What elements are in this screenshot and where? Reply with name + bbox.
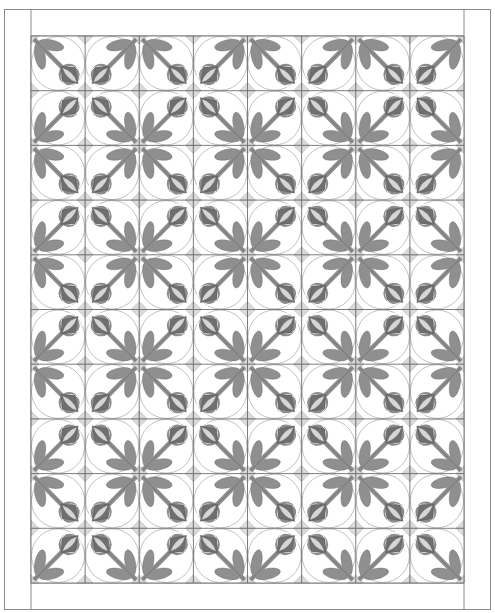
block-motif: [356, 36, 410, 91]
quilt-block: [193, 91, 247, 146]
quilt-block: [139, 91, 193, 146]
block-motif: [193, 528, 247, 583]
quilt-block: [85, 419, 139, 474]
quilt-block: [139, 474, 193, 529]
quilt-block: [248, 36, 302, 91]
block-motif: [302, 200, 356, 255]
quilt-block: [193, 310, 247, 365]
quilt-block: [193, 528, 247, 583]
quilt-block: [410, 255, 464, 310]
quilt-block: [302, 145, 356, 200]
block-motif: [410, 145, 464, 200]
quilt-block: [356, 419, 410, 474]
block-motif: [85, 36, 139, 91]
block-motif: [193, 310, 247, 365]
block-motif: [85, 474, 139, 529]
block-motif: [302, 91, 356, 146]
quilt-block: [139, 310, 193, 365]
quilt-block: [31, 364, 85, 419]
block-motif: [139, 255, 193, 310]
block-motif: [410, 419, 464, 474]
block-motif: [193, 200, 247, 255]
quilt-block: [193, 200, 247, 255]
block-motif: [248, 364, 302, 419]
quilt-block: [248, 364, 302, 419]
quilt-block: [31, 528, 85, 583]
quilt-block: [31, 255, 85, 310]
block-motif: [31, 145, 85, 200]
block-motif: [410, 200, 464, 255]
block-motif: [302, 310, 356, 365]
quilt-block: [85, 310, 139, 365]
quilt-block: [85, 474, 139, 529]
block-motif: [139, 145, 193, 200]
block-motif: [302, 255, 356, 310]
block-motif: [248, 36, 302, 91]
quilt-block: [410, 528, 464, 583]
block-motif: [248, 91, 302, 146]
quilt-block: [31, 36, 85, 91]
quilt-block: [85, 145, 139, 200]
block-motif: [85, 310, 139, 365]
quilt-block: [302, 528, 356, 583]
quilt-block: [302, 474, 356, 529]
block-motif: [85, 145, 139, 200]
block-motif: [410, 91, 464, 146]
block-motif: [410, 528, 464, 583]
block-motif: [139, 528, 193, 583]
quilt-block: [356, 310, 410, 365]
block-motif: [193, 145, 247, 200]
quilt-block: [139, 528, 193, 583]
quilt-block: [31, 474, 85, 529]
block-motif: [193, 364, 247, 419]
quilt-block: [302, 310, 356, 365]
block-motif: [139, 364, 193, 419]
block-motif: [85, 255, 139, 310]
quilt-block: [356, 474, 410, 529]
block-motif: [248, 528, 302, 583]
block-motif: [248, 419, 302, 474]
block-motif: [31, 364, 85, 419]
block-motif: [31, 474, 85, 529]
quilt-layout: [0, 0, 495, 613]
quilt-block: [193, 474, 247, 529]
block-motif: [85, 91, 139, 146]
block-motif: [248, 200, 302, 255]
quilt-block: [410, 419, 464, 474]
block-motif: [410, 474, 464, 529]
quilt-block: [31, 310, 85, 365]
block-motif: [193, 255, 247, 310]
quilt-block: [31, 419, 85, 474]
quilt-block: [193, 255, 247, 310]
block-motif: [31, 36, 85, 91]
block-motif: [31, 528, 85, 583]
block-motif: [410, 255, 464, 310]
quilt-block: [248, 310, 302, 365]
quilt-block: [85, 91, 139, 146]
block-motif: [85, 528, 139, 583]
block-motif: [356, 91, 410, 146]
quilt-block: [356, 145, 410, 200]
quilt-block: [193, 419, 247, 474]
block-motif: [302, 36, 356, 91]
quilt-block: [410, 145, 464, 200]
block-motif: [302, 474, 356, 529]
block-motif: [139, 200, 193, 255]
quilt-block: [356, 364, 410, 419]
block-motif: [356, 364, 410, 419]
block-motif: [356, 310, 410, 365]
quilt-block: [356, 91, 410, 146]
quilt-block: [85, 528, 139, 583]
quilt-block: [302, 364, 356, 419]
block-motif: [193, 419, 247, 474]
quilt-block: [139, 36, 193, 91]
block-motif: [410, 36, 464, 91]
block-motif: [193, 474, 247, 529]
quilt-block: [356, 36, 410, 91]
block-motif: [31, 200, 85, 255]
quilt-block: [248, 145, 302, 200]
quilt-block: [139, 364, 193, 419]
quilt-block: [302, 36, 356, 91]
block-motif: [31, 91, 85, 146]
block-motif: [248, 145, 302, 200]
